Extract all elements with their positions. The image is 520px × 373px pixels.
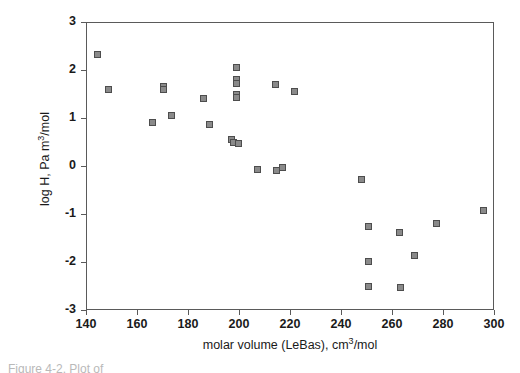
y-axis-label-wrapper: log H, Pa m3/mol: [35, 34, 53, 284]
data-point: [200, 95, 207, 102]
plot-area: [86, 22, 494, 310]
y-axis-tick: [81, 310, 86, 311]
y-axis-label: log H, Pa m3/mol: [38, 112, 52, 206]
y-axis-label-text: log H, Pa m: [38, 141, 52, 206]
x-axis-tick-label: 140: [62, 317, 110, 331]
x-axis-label-suffix: /mol: [354, 338, 378, 352]
x-axis-tick: [341, 310, 342, 315]
data-point: [160, 86, 167, 93]
data-point: [365, 223, 372, 230]
y-axis-tick-label: 2: [52, 62, 76, 76]
data-point: [233, 80, 240, 87]
y-axis-tick: [81, 166, 86, 167]
y-axis-tick-label: -2: [52, 254, 76, 268]
x-axis-tick-label: 280: [419, 317, 467, 331]
scatter-plot-figure: 140160180200220240260280300-3-2-10123 mo…: [0, 0, 520, 373]
x-axis-tick: [290, 310, 291, 315]
x-axis-tick: [392, 310, 393, 315]
data-point: [235, 140, 242, 147]
data-point: [396, 229, 403, 236]
x-axis-tick-label: 260: [368, 317, 416, 331]
y-axis-tick-label: 1: [52, 110, 76, 124]
data-point: [272, 81, 279, 88]
data-point: [168, 112, 175, 119]
data-point: [206, 121, 213, 128]
x-axis-tick-label: 300: [470, 317, 518, 331]
y-axis-tick-label: -1: [52, 206, 76, 220]
y-axis-tick: [81, 214, 86, 215]
y-axis-tick: [81, 262, 86, 263]
data-point: [411, 252, 418, 259]
y-axis-tick: [81, 118, 86, 119]
data-point: [233, 94, 240, 101]
x-axis-tick: [494, 310, 495, 315]
y-axis-tick: [81, 70, 86, 71]
x-axis-tick: [137, 310, 138, 315]
data-point: [94, 51, 101, 58]
y-axis-tick: [81, 22, 86, 23]
data-point: [480, 207, 487, 214]
y-axis-tick-label: 3: [52, 14, 76, 28]
data-point: [291, 88, 298, 95]
y-axis-label-superscript: 3: [36, 136, 46, 141]
data-point: [433, 220, 440, 227]
data-point: [365, 258, 372, 265]
data-points-layer: [87, 23, 493, 309]
y-axis-tick-label: -3: [52, 302, 76, 316]
x-axis-tick: [239, 310, 240, 315]
x-axis-label: molar volume (LeBas), cm3/mol: [86, 338, 494, 352]
data-point: [149, 119, 156, 126]
data-point: [358, 176, 365, 183]
x-axis-tick-label: 160: [113, 317, 161, 331]
data-point: [279, 164, 286, 171]
data-point: [365, 283, 372, 290]
x-axis-tick: [86, 310, 87, 315]
data-point: [233, 64, 240, 71]
x-axis-tick: [188, 310, 189, 315]
x-axis-tick: [443, 310, 444, 315]
y-axis-label-suffix: /mol: [38, 112, 52, 136]
data-point: [254, 166, 261, 173]
x-axis-tick-label: 200: [215, 317, 263, 331]
x-axis-tick-label: 240: [317, 317, 365, 331]
x-axis-tick-label: 180: [164, 317, 212, 331]
x-axis-label-text: molar volume (LeBas), cm: [203, 338, 349, 352]
data-point: [397, 284, 404, 291]
figure-caption: Figure 4-2. Plot of: [8, 362, 338, 373]
data-point: [105, 86, 112, 93]
y-axis-tick-label: 0: [52, 158, 76, 172]
x-axis-tick-label: 220: [266, 317, 314, 331]
